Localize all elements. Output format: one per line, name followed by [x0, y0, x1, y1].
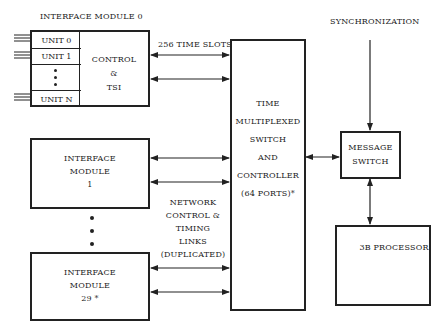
unit-0[interactable]: UNIT 0 [32, 32, 81, 49]
interface-module-29-label: INTERFACE MODULE 29 * [32, 266, 148, 305]
interface-module-29[interactable]: INTERFACE MODULE 29 * [30, 252, 150, 321]
control-tsi-label: CONTROL & TSI [80, 53, 148, 95]
processor-label: 3B PROCESSOR [337, 243, 429, 252]
3b-processor[interactable]: 3B PROCESSOR [335, 225, 431, 306]
network-links-label: NETWORK CONTROL & TIMING LINKS (DUPLICAT… [158, 196, 228, 261]
time-slots-label: 256 TIME SLOTS [158, 40, 232, 49]
synchronization-label: SYNCHRONIZATION [330, 17, 420, 26]
interface-module-1-label: INTERFACE MODULE 1 [32, 152, 148, 191]
unit-n[interactable]: UNIT N [32, 91, 81, 107]
message-switch-label: MESSAGE SWITCH [342, 141, 399, 169]
time-multiplexed-switch[interactable]: TIME MULTIPLEXED SWITCH AND CONTROLLER (… [230, 39, 306, 311]
unit-1[interactable]: UNIT 1 [32, 49, 81, 65]
message-switch[interactable]: MESSAGE SWITCH [340, 131, 401, 179]
interface-module-1[interactable]: INTERFACE MODULE 1 [30, 138, 150, 209]
tms-label: TIME MULTIPLEXED SWITCH AND CONTROLLER (… [232, 95, 304, 203]
interface-module-0[interactable]: UNIT 0 UNIT 1 UNIT N CONTROL & TSI [30, 30, 150, 107]
unit-ellipsis [32, 65, 81, 91]
ellipsis-dot [90, 216, 94, 220]
ellipsis-dot [90, 242, 94, 246]
ellipsis-dot [90, 229, 94, 233]
interface-module-0-title: INTERFACE MODULE 0 [40, 12, 143, 21]
